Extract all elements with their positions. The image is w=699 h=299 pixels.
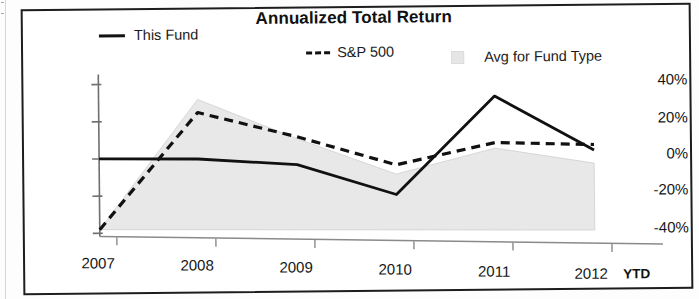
plot-canvas: [21, 3, 690, 291]
x-axis-tick-marks: [117, 233, 612, 257]
y-axis-line: [98, 74, 100, 236]
chart-content: Annualized Total Return This Fund S&P 50…: [21, 3, 690, 291]
scanned-chart-figure: Annualized Total Return This Fund S&P 50…: [0, 0, 699, 299]
page-edge-artifact: [0, 0, 6, 299]
avg-for-fund-type-band: [99, 96, 595, 235]
x-axis-line: [100, 231, 663, 249]
